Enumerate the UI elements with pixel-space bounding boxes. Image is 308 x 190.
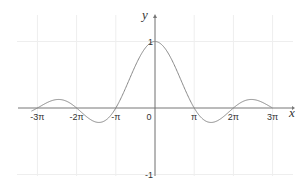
y-axis-label: y bbox=[140, 7, 148, 22]
y-axis-arrow-icon bbox=[153, 14, 157, 18]
sinc-chart: -3π-2π-π0π2π3π1-1 x y bbox=[0, 0, 308, 190]
sinc-curve bbox=[31, 42, 272, 123]
x-tick-label: -3π bbox=[30, 112, 44, 122]
x-tick-label: -π bbox=[111, 112, 120, 122]
x-tick-label: 0 bbox=[146, 112, 151, 122]
x-tick-label: π bbox=[191, 112, 197, 122]
axes bbox=[18, 14, 295, 176]
x-tick-label: -2π bbox=[69, 112, 83, 122]
x-tick-label: 2π bbox=[228, 112, 239, 122]
x-axis-label: x bbox=[288, 105, 295, 120]
y-tick-label: -1 bbox=[145, 170, 153, 180]
y-tick-label: 1 bbox=[148, 37, 153, 47]
x-tick-label: 3π bbox=[267, 112, 278, 122]
